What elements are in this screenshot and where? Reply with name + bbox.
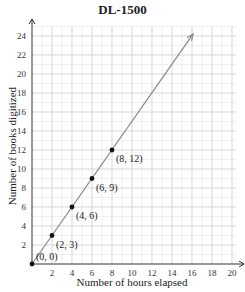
y-tick-label: 8	[22, 183, 27, 193]
x-tick-label: 4	[70, 268, 75, 278]
data-point	[70, 205, 75, 210]
x-tick-label: 20	[228, 268, 238, 278]
x-tick-label: 18	[208, 268, 218, 278]
y-tick-label: 18	[17, 88, 27, 98]
data-point	[110, 148, 115, 153]
x-tick-label: 2	[50, 268, 55, 278]
y-tick-label: 20	[17, 69, 27, 79]
x-tick-label: 6	[90, 268, 95, 278]
y-tick-label: 10	[17, 164, 27, 174]
data-point	[50, 233, 55, 238]
y-tick-label: 4	[22, 221, 27, 231]
data-point-label: (0, 0)	[36, 251, 58, 263]
y-tick-label: 2	[22, 240, 27, 250]
x-tick-label: 8	[110, 268, 115, 278]
data-point-label: (8, 12)	[116, 153, 143, 165]
data-point-label: (2, 3)	[56, 239, 78, 251]
data-point	[30, 262, 35, 267]
data-point	[90, 176, 95, 181]
y-tick-label: 22	[17, 50, 26, 60]
y-tick-label: 12	[17, 145, 26, 155]
data-point-label: (6, 9)	[96, 182, 118, 194]
x-tick-label: 10	[128, 268, 138, 278]
y-tick-label: 24	[17, 31, 27, 41]
y-tick-label: 14	[17, 126, 27, 136]
line-chart: 246810121416182024681012141618202224(0, …	[0, 0, 245, 292]
y-tick-label: 6	[22, 202, 27, 212]
x-tick-label: 12	[148, 268, 157, 278]
data-point-label: (4, 6)	[76, 210, 98, 222]
x-tick-label: 14	[168, 268, 178, 278]
y-tick-label: 16	[17, 107, 27, 117]
x-tick-label: 16	[188, 268, 198, 278]
